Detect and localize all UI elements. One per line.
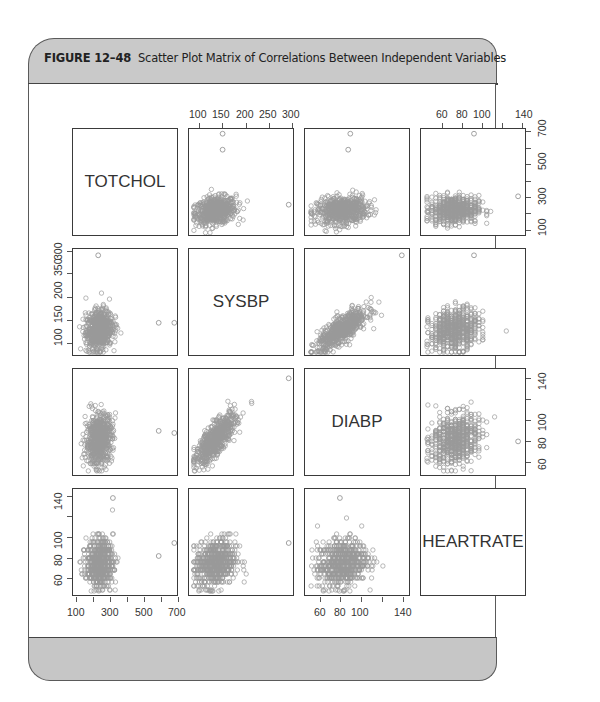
figure-caption: Scatter Plot Matrix of Correlations Betw… (138, 51, 506, 65)
tick-label: 250 (259, 108, 277, 120)
tick-label: 100 (473, 108, 491, 120)
tick-label: 100 (351, 606, 369, 618)
scatter-panel-sysbp-vs-heartrate (188, 488, 294, 596)
scatter-panel-heartrate-vs-diabp (420, 368, 526, 476)
tick-label: 200 (52, 281, 64, 299)
tick-label: 60 (314, 606, 326, 618)
tick-label: 140 (52, 492, 64, 510)
tick-label: 150 (52, 305, 64, 323)
tick-label: 300 (536, 187, 548, 205)
scatter-panel-sysbp-vs-diabp (188, 368, 294, 476)
scatter-panel-diabp-vs-totchol (304, 128, 410, 236)
tick-label: 300 (282, 108, 300, 120)
diag-panel-diabp: DIABP (304, 368, 410, 476)
tick-label: 500 (536, 152, 548, 170)
scatter-panel-totchol-vs-heartrate (72, 488, 178, 596)
var-label-totchol: TOTCHOL (73, 172, 177, 192)
scatter-points (421, 129, 526, 236)
figure-footer-band (28, 637, 497, 681)
tick-label: 60 (52, 574, 64, 586)
tick-label: 100 (189, 108, 207, 120)
tick-label: 80 (536, 437, 548, 449)
var-label-heartrate: HEARTRATE (421, 532, 525, 552)
tick-label: 140 (394, 606, 412, 618)
tick-label: 80 (334, 606, 346, 618)
scatter-points (189, 129, 294, 236)
tick-label: 700 (536, 119, 548, 137)
scatter-panel-totchol-vs-diabp (72, 368, 178, 476)
scatter-points (305, 129, 410, 236)
tick-label: 100 (52, 328, 64, 346)
diag-panel-sysbp: SYSBP (188, 248, 294, 356)
scatter-points (189, 489, 294, 596)
figure-label: FIGURE 12–48 (44, 51, 131, 65)
scatter-points (421, 369, 526, 476)
tick-label: 100 (536, 413, 548, 431)
tick-label: 100 (536, 218, 548, 236)
scatter-panel-diabp-vs-heartrate (304, 488, 410, 596)
figure-title: FIGURE 12–48 Scatter Plot Matrix of Corr… (44, 51, 506, 65)
tick-label: 300 (101, 606, 119, 618)
tick-label: 60 (536, 458, 548, 470)
var-label-sysbp: SYSBP (189, 292, 293, 312)
scatter-points (73, 369, 178, 476)
scatter-panel-heartrate-vs-sysbp (420, 248, 526, 356)
tick-label: 700 (168, 606, 186, 618)
tick-label: 80 (456, 108, 468, 120)
tick-label: 100 (52, 531, 64, 549)
tick-label: 140 (536, 372, 548, 390)
tick-label: 500 (135, 606, 153, 618)
tick-label: 300 (52, 242, 64, 260)
tick-label: 80 (52, 554, 64, 566)
tick-label: 200 (236, 108, 254, 120)
tick-label: 150 (212, 108, 230, 120)
diag-panel-totchol: TOTCHOL (72, 128, 178, 236)
scatter-points (73, 489, 178, 596)
var-label-diabp: DIABP (305, 412, 409, 432)
scatter-panel-heartrate-vs-totchol (420, 128, 526, 236)
scatter-panel-totchol-vs-sysbp (72, 248, 178, 356)
tick-label: 140 (515, 108, 533, 120)
scatter-panel-sysbp-vs-totchol (188, 128, 294, 236)
scatter-points (305, 249, 410, 356)
diag-panel-heartrate: HEARTRATE (420, 488, 526, 596)
tick-label: 350 (52, 258, 64, 276)
scatter-points (305, 489, 410, 596)
scatter-panel-diabp-vs-sysbp (304, 248, 410, 356)
tick-label: 100 (67, 606, 85, 618)
scatter-points (189, 369, 294, 476)
scatter-points (73, 249, 178, 356)
tick-label: 60 (436, 108, 448, 120)
scatter-points (421, 249, 526, 356)
